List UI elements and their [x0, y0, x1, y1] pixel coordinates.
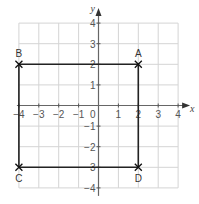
y-tick-label: −4	[84, 183, 96, 194]
x-tick-label: −2	[53, 109, 65, 120]
y-tick-label: −2	[84, 142, 96, 153]
point-label-d: D	[135, 173, 142, 184]
y-tick-label: −1	[84, 121, 96, 132]
x-tick-label: −3	[33, 109, 45, 120]
point-label-c: C	[15, 173, 22, 184]
x-tick-label: −1	[73, 109, 85, 120]
x-axis-arrow-icon	[182, 103, 190, 109]
x-tick-label: 4	[175, 109, 181, 120]
y-tick-label: 4	[90, 18, 96, 29]
origin-label: 0	[90, 109, 96, 120]
x-tick-label: 1	[116, 109, 122, 120]
x-tick-label: 3	[155, 109, 161, 120]
y-axis-arrow-icon	[96, 8, 102, 16]
y-axis-label: y	[90, 3, 96, 14]
coordinate-grid: xy−4−3−2−11234−4−3−2−112340ABCD	[0, 0, 199, 204]
point-label-a: A	[135, 48, 142, 59]
y-tick-label: 1	[90, 80, 96, 91]
point-label-b: B	[16, 48, 23, 59]
y-tick-label: 3	[90, 39, 96, 50]
x-axis-label: x	[189, 103, 195, 114]
